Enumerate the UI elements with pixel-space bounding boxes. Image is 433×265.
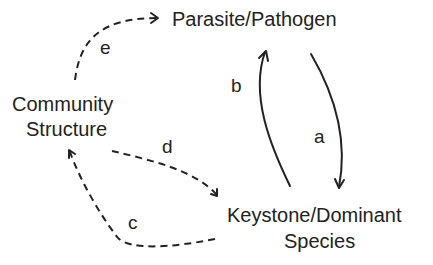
edge-c-label: c <box>128 212 138 233</box>
edge-d-label: d <box>162 136 173 157</box>
edge-a-label: a <box>314 126 325 147</box>
edge-e-line <box>75 18 158 80</box>
diagram-canvas: Parasite/Pathogen Community Structure Ke… <box>0 0 433 265</box>
edge-c-line <box>70 152 215 246</box>
node-keystone-dominant-species-line1: Keystone/Dominant <box>227 204 402 226</box>
node-keystone-dominant-species: Keystone/Dominant Species <box>227 204 402 252</box>
edge-b: b <box>231 51 290 186</box>
edge-a: a <box>311 54 344 188</box>
node-parasite-pathogen: Parasite/Pathogen <box>172 8 337 30</box>
node-community-structure-line2: Structure <box>26 118 107 140</box>
node-parasite-pathogen-label: Parasite/Pathogen <box>172 8 337 30</box>
edge-c: c <box>69 150 215 246</box>
edge-e-label: e <box>100 37 111 58</box>
edge-b-label: b <box>231 75 242 96</box>
node-community-structure: Community Structure <box>12 93 113 140</box>
edge-e: e <box>75 13 158 80</box>
edge-d-line <box>112 151 217 195</box>
edge-a-line <box>311 54 342 187</box>
node-keystone-dominant-species-line2: Species <box>284 230 355 252</box>
node-community-structure-line1: Community <box>12 93 113 115</box>
edge-b-line <box>260 52 290 186</box>
edge-d: d <box>112 136 217 196</box>
